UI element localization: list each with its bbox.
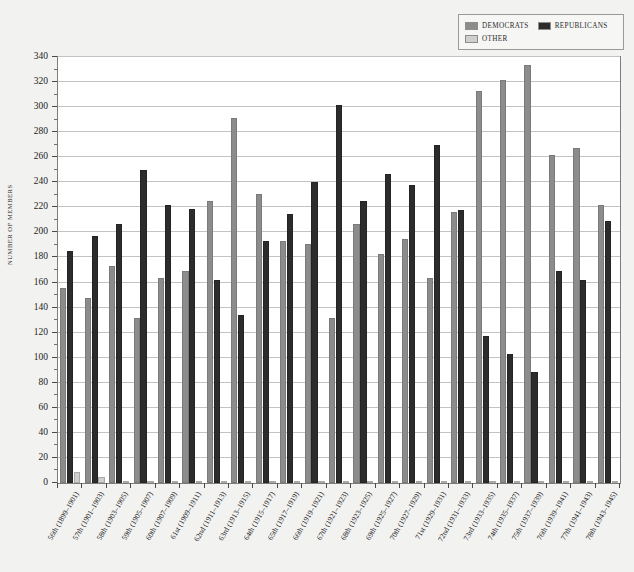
bar-democrats-19: [524, 65, 530, 483]
y-tick-label: 160: [34, 277, 48, 287]
bar-democrats-22: [598, 205, 604, 483]
bar-republicans-22: [605, 221, 611, 483]
y-tick-label: 280: [34, 126, 48, 136]
y-axis: NUMBER OF MEMBERS 0204060801001201401601…: [0, 0, 57, 572]
bar-republicans-0: [67, 251, 73, 483]
bar-republicans-14: [409, 185, 415, 483]
y-tick-label: 220: [34, 201, 48, 211]
bar-democrats-10: [305, 244, 311, 483]
bar-democrats-8: [256, 194, 262, 483]
bar-republicans-15: [434, 145, 440, 483]
y-tick-label: 180: [34, 251, 48, 261]
y-tick-label: 40: [39, 427, 49, 437]
bar-democrats-3: [134, 318, 140, 483]
legend-entry-republicans: REPUBLICANS: [538, 22, 608, 30]
bar-republicans-9: [287, 214, 293, 483]
bar-democrats-7: [231, 118, 237, 483]
bar-democrats-0: [60, 288, 66, 483]
y-tick-label: 120: [34, 327, 48, 337]
y-tick-label: 0: [43, 477, 48, 487]
legend-swatch-other: [465, 35, 478, 43]
legend-label-republicans: REPUBLICANS: [555, 22, 608, 30]
bar-democrats-18: [500, 80, 506, 483]
y-axis-title: NUMBER OF MEMBERS: [6, 184, 13, 265]
legend-label-democrats: DEMOCRATS: [482, 22, 529, 30]
chart-legend: DEMOCRATS REPUBLICANS OTHER: [458, 14, 624, 50]
bar-democrats-21: [573, 148, 579, 483]
bar-democrats-1: [85, 298, 91, 483]
legend-row-2: OTHER: [465, 32, 618, 45]
bar-republicans-10: [311, 182, 317, 483]
bar-republicans-13: [385, 174, 391, 483]
bars-layer: [58, 57, 620, 483]
y-tick-label: 240: [34, 176, 48, 186]
bar-democrats-16: [451, 212, 457, 483]
legend-entry-other: OTHER: [465, 35, 508, 43]
y-tick-label: 100: [34, 352, 48, 362]
y-tick-label: 60: [39, 402, 49, 412]
bar-democrats-9: [280, 241, 286, 483]
bar-republicans-3: [140, 170, 146, 483]
bar-republicans-16: [458, 210, 464, 483]
bar-republicans-11: [336, 105, 342, 483]
x-tick-mark: [57, 483, 58, 488]
legend-entry-democrats: DEMOCRATS: [465, 22, 529, 30]
bar-democrats-14: [402, 239, 408, 483]
y-tick-label: 260: [34, 151, 48, 161]
bar-republicans-4: [165, 205, 171, 483]
bar-democrats-13: [378, 254, 384, 483]
bar-democrats-12: [353, 224, 359, 483]
bar-democrats-17: [476, 91, 482, 483]
bar-democrats-2: [109, 266, 115, 483]
y-tick-label: 300: [34, 101, 48, 111]
legend-swatch-democrats: [465, 22, 478, 30]
bar-democrats-11: [329, 318, 335, 483]
legend-row-1: DEMOCRATS REPUBLICANS: [465, 19, 618, 32]
bar-democrats-15: [427, 278, 433, 483]
bar-republicans-5: [189, 209, 195, 483]
y-tick-label: 200: [34, 226, 48, 236]
bar-democrats-5: [182, 271, 188, 483]
x-axis: 56th (1899–1901)57th (1901–1903)58th (19…: [57, 483, 621, 572]
y-tick-label: 140: [34, 302, 48, 312]
bar-democrats-20: [549, 155, 555, 483]
y-tick-label: 340: [34, 51, 48, 61]
y-tick-label: 80: [39, 377, 49, 387]
bar-republicans-2: [116, 224, 122, 483]
legend-swatch-republicans: [538, 22, 551, 30]
bar-republicans-1: [92, 236, 98, 483]
plot-area: [57, 56, 621, 484]
y-tick-label: 320: [34, 76, 48, 86]
bar-democrats-6: [207, 201, 213, 483]
bar-republicans-12: [360, 201, 366, 483]
bar-democrats-4: [158, 278, 164, 483]
legend-label-other: OTHER: [482, 35, 508, 43]
y-tick-label: 20: [39, 452, 49, 462]
chart-page: DEMOCRATS REPUBLICANS OTHER NUMBER OF ME…: [0, 0, 634, 572]
